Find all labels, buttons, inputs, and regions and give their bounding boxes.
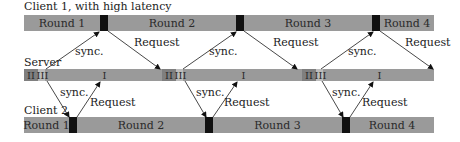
server-phase3-label-2: III — [176, 69, 185, 81]
client1-sync-marker-2 — [236, 15, 244, 31]
server-phase3-label-1: III — [38, 69, 47, 81]
client1-round-3: Round 3 — [244, 15, 372, 31]
client2-round-1: Round 1 — [24, 117, 69, 133]
client2-timeline-bar: Round 1 Round 2 Round 3 Round 4 — [24, 117, 434, 133]
sync-label-c2-3: sync. — [332, 87, 361, 98]
client1-round-2: Round 2 — [108, 15, 236, 31]
client2-sync-marker-2 — [205, 117, 213, 133]
client1-round-4: Round 4 — [380, 15, 434, 31]
client1-timeline-bar: Round 1 Round 2 Round 3 Round 4 — [24, 15, 434, 31]
server-phase1-label-1: I — [47, 69, 162, 81]
request-label-c2-1: Request — [90, 97, 136, 108]
server-phase3-label-3: III — [316, 69, 325, 81]
client2-sync-marker-3 — [342, 117, 350, 133]
client1-title: Client 1, with high latency — [24, 1, 172, 12]
sync-label-c1-1: sync. — [75, 46, 104, 57]
client1-sync-marker-3 — [372, 15, 380, 31]
client1-sync-marker-1 — [100, 15, 108, 31]
sync-label-c1-3: sync. — [348, 46, 377, 57]
server-phase1-label-2: I — [185, 69, 302, 81]
request-label-c2-3: Request — [362, 97, 408, 108]
client2-sync-marker-1 — [69, 117, 77, 133]
client2-round-2: Round 2 — [77, 117, 205, 133]
request-label-c1-2: Request — [273, 37, 319, 48]
server-phase1-label-3: I — [325, 69, 434, 81]
sync-label-c1-2: sync. — [209, 46, 238, 57]
server-timeline-bar: II III I II III I II III I — [24, 69, 434, 81]
server-label: Server — [24, 57, 61, 68]
client2-label: Client 2 — [24, 105, 68, 116]
request-label-c1-1: Request — [134, 37, 180, 48]
request-label-c2-2: Request — [224, 97, 270, 108]
sync-label-c2-1: sync. — [60, 87, 89, 98]
sync-label-c2-2: sync. — [196, 87, 225, 98]
client2-round-4: Round 4 — [350, 117, 434, 133]
request-label-c1-3: Request — [405, 37, 451, 48]
client1-round-1: Round 1 — [24, 15, 100, 31]
client2-round-3: Round 3 — [213, 117, 342, 133]
